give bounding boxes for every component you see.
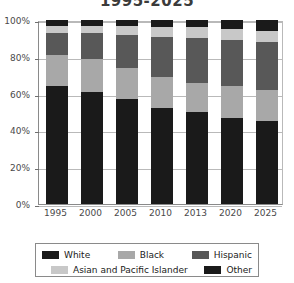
bar-group[interactable] (46, 20, 68, 204)
bar-segment[interactable] (221, 29, 243, 40)
bar-segment[interactable] (81, 33, 103, 59)
bar-segment[interactable] (221, 20, 243, 29)
chart-title: 1995-2025 (0, 0, 294, 10)
bar-group[interactable] (116, 20, 138, 204)
legend-label: White (64, 250, 90, 260)
bar-segment[interactable] (116, 68, 138, 99)
bar-segment[interactable] (46, 33, 68, 55)
bar-segment[interactable] (221, 40, 243, 86)
y-axis-label: 100% (0, 16, 30, 26)
y-axis-label: 0% (0, 200, 30, 210)
bar-segment[interactable] (46, 55, 68, 86)
chart-container: 1995-2025 0%20%40%60%80%100% 19952000200… (0, 0, 294, 283)
bar-segment[interactable] (221, 86, 243, 117)
y-axis-label: 20% (0, 163, 30, 173)
bar-segment[interactable] (46, 26, 68, 33)
legend-label: Other (226, 265, 252, 275)
y-axis-label: 80% (0, 53, 30, 63)
bar-group[interactable] (151, 20, 173, 204)
y-axis-label: 60% (0, 90, 30, 100)
bar-segment[interactable] (151, 108, 173, 204)
bar-group[interactable] (81, 20, 103, 204)
legend-row-2: Asian and Pacific IslanderOther (42, 262, 252, 277)
legend-swatch-icon (42, 251, 59, 259)
bar-segment[interactable] (116, 26, 138, 35)
legend-item[interactable]: Black (118, 250, 164, 260)
legend-row-1: WhiteBlackHispanic (42, 247, 252, 262)
bar-segment[interactable] (256, 90, 278, 121)
bar-segment[interactable] (81, 26, 103, 33)
bar-segment[interactable] (256, 42, 278, 90)
bar-segment[interactable] (186, 83, 208, 112)
legend-item[interactable]: Asian and Pacific Islander (51, 265, 188, 275)
bar-segment[interactable] (81, 59, 103, 92)
bar-segment[interactable] (186, 27, 208, 38)
bar-segment[interactable] (256, 20, 278, 31)
legend-swatch-icon (204, 266, 221, 274)
bar-group[interactable] (256, 20, 278, 204)
legend-swatch-icon (118, 251, 135, 259)
bar-segment[interactable] (256, 121, 278, 204)
legend-label: Asian and Pacific Islander (73, 265, 188, 275)
bar-segment[interactable] (46, 86, 68, 204)
legend-item[interactable]: Hispanic (192, 250, 252, 260)
legend-swatch-icon (51, 266, 68, 274)
bar-segment[interactable] (186, 20, 208, 27)
bar-segment[interactable] (116, 35, 138, 68)
bar-segment[interactable] (116, 99, 138, 204)
bar-segment[interactable] (81, 92, 103, 204)
legend-swatch-icon (192, 251, 209, 259)
bar-group[interactable] (221, 20, 243, 204)
legend-item[interactable]: White (42, 250, 90, 260)
bar-segment[interactable] (186, 112, 208, 204)
bar-segment[interactable] (151, 27, 173, 36)
legend-label: Hispanic (214, 250, 252, 260)
bar-segment[interactable] (151, 77, 173, 108)
bar-segment[interactable] (256, 31, 278, 42)
y-axis-label: 40% (0, 126, 30, 136)
legend-item[interactable]: Other (204, 265, 252, 275)
bar-series-container (39, 22, 282, 204)
y-axis-tick (35, 206, 39, 207)
bar-group[interactable] (186, 20, 208, 204)
bar-segment[interactable] (151, 20, 173, 27)
bar-segment[interactable] (46, 20, 68, 26)
bar-segment[interactable] (151, 37, 173, 77)
gridline (39, 206, 282, 207)
x-axis-label: 2025 (243, 208, 289, 218)
legend-label: Black (140, 250, 164, 260)
bar-segment[interactable] (116, 20, 138, 26)
bar-segment[interactable] (81, 20, 103, 26)
chart-legend: WhiteBlackHispanic Asian and Pacific Isl… (35, 243, 259, 277)
bar-segment[interactable] (186, 38, 208, 82)
bar-segment[interactable] (221, 118, 243, 204)
plot-area (38, 21, 283, 205)
